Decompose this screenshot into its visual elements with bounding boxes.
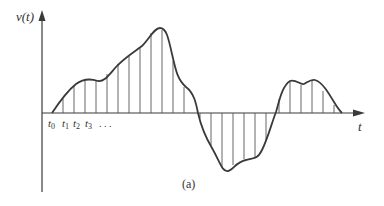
y-axis-arrow-icon — [39, 10, 46, 21]
sample-label-t3: t3 — [85, 117, 92, 131]
t-axis-arrow-icon — [353, 110, 365, 117]
signal-curve — [52, 28, 342, 171]
sample-label-t0: t0 — [48, 117, 55, 131]
axes — [39, 10, 366, 192]
y-axis-label: v(t) — [16, 9, 34, 24]
sampled-signal-diagram: v(t) t t0 t1 t2 t3 . . . (a) — [0, 0, 384, 206]
sample-label-t1: t1 — [62, 117, 69, 131]
sample-label-t2: t2 — [73, 117, 80, 131]
sample-lines — [63, 30, 334, 167]
x-axis-label: t — [358, 119, 362, 134]
figure-caption: (a) — [182, 177, 195, 191]
sample-time-labels: t0 t1 t2 t3 . . . — [48, 117, 112, 131]
sample-label-ellipsis: . . . — [99, 118, 112, 129]
